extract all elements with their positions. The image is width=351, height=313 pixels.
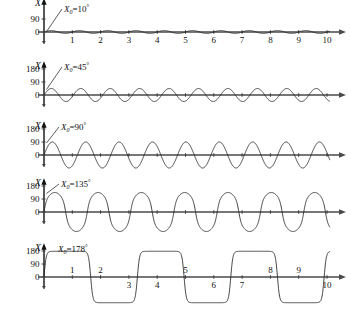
x-tick-label: 2 <box>98 35 103 45</box>
x-axis-arrow <box>339 274 346 280</box>
x-tick-label: 3 <box>127 280 132 290</box>
x-tick-label: 9 <box>296 35 301 45</box>
x-tick-label: 4 <box>155 280 160 290</box>
panel-45: X090180X0=45° <box>26 61 346 107</box>
y-axis-label: X <box>34 0 42 8</box>
x-tick-label: 7 <box>240 280 245 290</box>
y-axis-arrow <box>41 61 46 68</box>
x-tick-label: 8 <box>268 265 273 275</box>
annotation-leader <box>47 9 63 32</box>
x-tick-label: 6 <box>212 35 217 45</box>
panel-178: X09018012345678910X0=178° <box>26 243 346 303</box>
x-axis-arrow <box>339 92 346 98</box>
y-tick-label: 90 <box>31 137 41 147</box>
x-tick-label: 2 <box>98 265 103 275</box>
x-tick-label: 9 <box>296 265 301 275</box>
x-axis-arrow <box>339 29 346 35</box>
y-axis-arrow <box>41 243 46 250</box>
annotation-leader <box>47 127 60 143</box>
y-tick-label: 180 <box>26 64 40 74</box>
y-tick-label: 90 <box>31 259 41 269</box>
annotation-leader <box>47 67 63 90</box>
y-axis-arrow <box>41 178 46 185</box>
initial-angle-annotation: X0=45° <box>63 61 90 73</box>
y-tick-label: 90 <box>31 77 41 87</box>
x-tick-label: 8 <box>268 35 273 45</box>
x-tick-label: 5 <box>183 35 188 45</box>
x-axis-arrow <box>339 152 346 158</box>
y-tick-label: 180 <box>26 246 40 256</box>
panel-135: X090180X0=135° <box>26 178 346 232</box>
initial-angle-annotation: X0=178° <box>57 243 88 255</box>
annotation-leader <box>47 184 60 194</box>
y-tick-label: 180 <box>26 181 40 191</box>
y-tick-label: 180 <box>26 124 40 134</box>
y-axis-arrow <box>41 0 46 5</box>
x-tick-label: 6 <box>212 280 217 290</box>
x-tick-label: 10 <box>323 35 333 45</box>
x-tick-label: 1 <box>70 265 75 275</box>
y-tick-label: 90 <box>31 14 41 24</box>
initial-angle-annotation: X0=135° <box>60 178 91 190</box>
panel-90: X090180X0=90° <box>26 121 346 168</box>
panel-10: X09012345678910X0=10° <box>31 0 347 45</box>
x-tick-label: 7 <box>240 35 245 45</box>
x-axis-arrow <box>339 209 346 215</box>
x-tick-label: 3 <box>127 35 132 45</box>
pendulum-oscillation-figure: X09012345678910X0=10°X090180X0=45°X09018… <box>0 0 351 313</box>
initial-angle-annotation: X0=10° <box>63 3 90 15</box>
y-tick-label: 90 <box>31 194 41 204</box>
x-tick-label: 4 <box>155 35 160 45</box>
initial-angle-annotation: X0=90° <box>60 121 87 133</box>
x-tick-label: 1 <box>70 35 75 45</box>
y-axis-arrow <box>41 121 46 128</box>
